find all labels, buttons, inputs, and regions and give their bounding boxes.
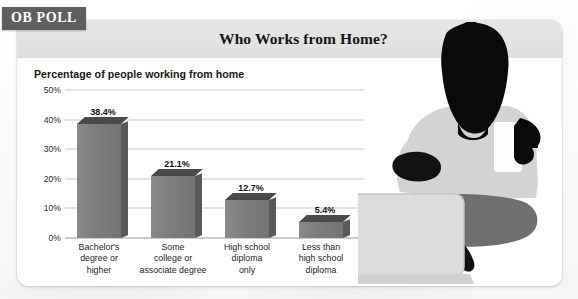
chart-subtitle: Percentage of people working from home [34,68,244,80]
y-axis-labels: 0%10%20%30%40%50% [34,90,61,238]
bar-value-label: 5.4% [315,205,336,215]
bar-top-face [225,193,277,200]
bar-top-face [299,215,351,222]
x-axis-category-label: High school diploma only [209,242,285,276]
bar-front-face [77,124,121,238]
bar-front-face [299,222,343,238]
bar-side-face [195,173,202,238]
laptop-lid-shape [358,194,464,276]
y-axis-tick: 40% [44,115,61,125]
x-axis-category-label: Less than high school diploma [283,242,359,276]
bar-front-face [225,200,269,238]
x-axis-labels: Bachelor's degree or higherSome college … [65,242,375,286]
laptop-base-shape [358,274,474,284]
x-axis-category-label: Some college or associate degree [135,242,211,276]
chart-bars: 38.4%21.1%12.7%5.4% [65,90,364,238]
chart-plot-area: 0%10%20%30%40%50% 38.4%21.1%12.7%5.4% [34,90,364,238]
y-axis-tick: 30% [44,144,61,154]
bar-4 [299,222,343,238]
bar-side-face [121,122,128,238]
y-axis-tick: 0% [49,233,61,243]
bar-side-face [343,219,350,238]
bar-top-face [151,169,203,176]
bar-value-label: 38.4% [90,107,116,117]
poll-badge: OB POLL [2,7,86,30]
y-axis-tick: 10% [44,203,61,213]
y-axis-tick: 50% [44,85,61,95]
poll-card: Who Works from Home? Percentage of peopl… [17,20,562,286]
y-axis-tick: 20% [44,174,61,184]
bar-value-label: 12.7% [238,183,264,193]
bar-3 [225,200,269,238]
bar-2 [151,176,195,238]
bar-front-face [151,176,195,238]
illustration-person-with-laptop [357,20,562,286]
bar-side-face [269,198,276,238]
fingers-shape [516,140,538,148]
bar-1 [77,124,121,238]
bar-value-label: 21.1% [164,159,190,169]
bar-top-face [77,117,129,124]
x-axis-category-label: Bachelor's degree or higher [61,242,137,276]
